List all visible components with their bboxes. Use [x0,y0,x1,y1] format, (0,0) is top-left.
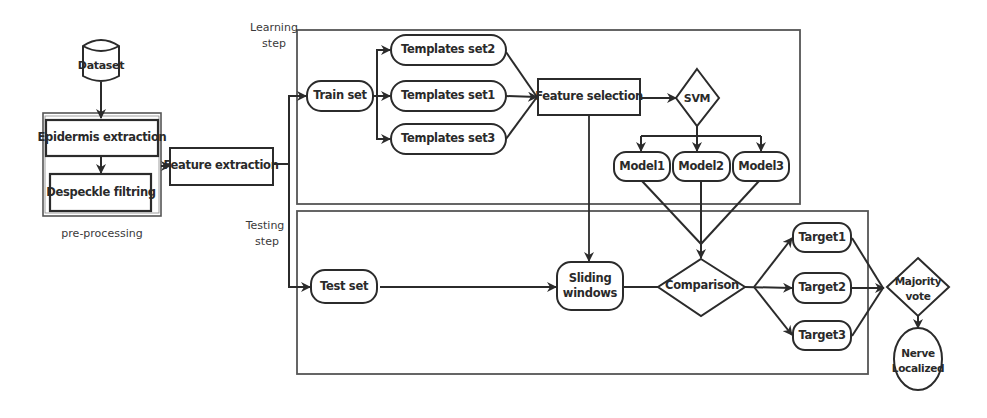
model2-label: Model2 [678,160,724,173]
edge-model3-comparison [701,181,759,244]
templates-set1-label: Templates set1 [401,89,495,102]
testing-step-label-line1: Testing [246,220,285,233]
learning-step-label-line1: Learning [250,22,298,35]
train-set-label: Train set [313,89,367,102]
sliding-windows-label-line1: Sliding [569,272,612,285]
edge-comparison-target3 [754,287,792,335]
testing-step-label-line2: step [255,236,279,249]
edge-set1-selection [506,96,537,97]
edge-set2-selection [506,52,537,97]
preprocessing-label: pre-processing [61,228,142,241]
svm-label: SVM [684,93,710,106]
templates-set2-label: Templates set2 [401,43,495,56]
nerve-localized-label-line1: Nerve [901,347,935,359]
learning-step-label-line2: step [262,38,286,51]
edge-model1-comparison [642,181,701,244]
nerve-localized-label-line2: Localized [892,362,944,374]
target1-label: Target1 [798,231,845,244]
flowchart-canvas [0,0,987,418]
edge-feature-test [289,164,310,287]
edge-comparison-target1 [754,238,792,287]
model1-label: Model1 [619,160,665,173]
comparison-label: Comparison [665,279,739,292]
edge-set3-selection [506,97,537,139]
majority-vote-label-line1: Majority [895,275,942,287]
sliding-windows-label-line2: windows [563,287,617,300]
edge-train-set2 [377,50,390,139]
target3-label: Target3 [798,329,845,342]
feature-extraction-label: Feature extraction [163,159,278,172]
epidermis-extraction-label: Epidermis extraction [38,131,167,144]
target2-label: Target2 [798,281,845,294]
despeckle-filtring-label: Despeckle filtring [46,186,155,199]
templates-set3-label: Templates set3 [401,132,495,145]
model3-label: Model3 [738,160,784,173]
feature-selection-label: Feature selection [535,90,643,103]
edge-train-set3 [377,96,390,139]
edge-comparison-target2 [745,287,792,288]
dataset-label: Dataset [78,60,124,73]
majority-vote-label-line2: vote [906,290,931,302]
test-set-label: Test set [320,280,368,293]
